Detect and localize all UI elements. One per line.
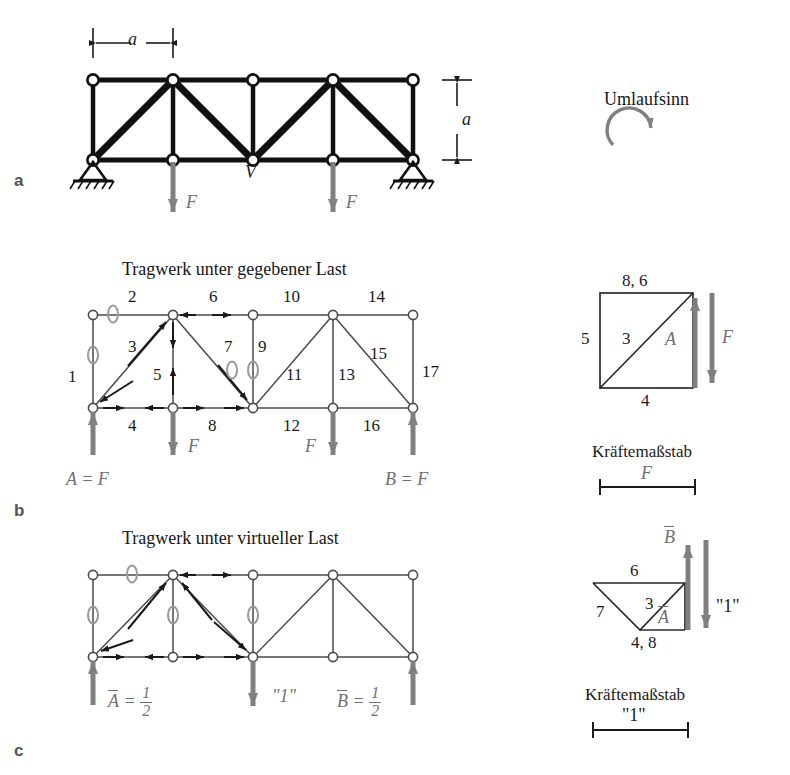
member-label-3: 3 — [128, 338, 137, 355]
polygon-b-label-bottom: 4 — [641, 392, 650, 409]
member-label-9: 9 — [258, 338, 267, 355]
panel-letter-c: c — [14, 742, 23, 759]
A-bar-symbol: A — [108, 692, 119, 710]
scale-value-c: "1" — [622, 706, 646, 724]
panel-a-load-label-1: F — [186, 193, 197, 211]
member-label-17: 17 — [422, 363, 439, 380]
reaction-label-B: B = F — [385, 470, 428, 488]
panel-c-title: Tragwerk unter virtueller Last — [122, 529, 339, 547]
B-bar-equals: = — [353, 691, 365, 711]
scale-caption-c: Kräftemaßstab — [585, 686, 685, 703]
member-label-13: 13 — [338, 366, 355, 383]
node-label-V: V — [245, 163, 256, 181]
member-label-14: 14 — [368, 288, 385, 305]
polygon-c-label-B-bar: B — [664, 528, 675, 546]
polygon-c-label-left: 7 — [596, 603, 605, 620]
polygon-b-label-A: A — [665, 330, 676, 348]
dimension-label-vertical: a — [462, 110, 471, 128]
member-label-10: 10 — [283, 288, 300, 305]
member-label-6: 6 — [209, 288, 218, 305]
figure-canvas: a b c a a V F F Tragwerk unter gegebener… — [0, 0, 790, 775]
member-label-12: 12 — [283, 417, 300, 434]
polygon-b-label-F: F — [722, 328, 733, 346]
polygon-b-label-left: 5 — [581, 330, 590, 347]
truss-c-members — [93, 575, 413, 657]
polygon-c-external-arrows — [688, 540, 706, 630]
polygon-c-label-A-bar: A — [658, 608, 669, 626]
polygon-c-label-one: "1" — [716, 597, 740, 615]
scale-caption-b: Kräftemaßstab — [592, 443, 692, 460]
member-label-1: 1 — [68, 368, 77, 385]
panel-a-load-label-2: F — [346, 193, 357, 211]
reaction-label-A: A = F — [66, 470, 109, 488]
A-bar-fraction: 1 2 — [140, 685, 152, 720]
member-label-8: 8 — [208, 417, 217, 434]
umlaufsinn-arrow-icon — [607, 108, 651, 145]
panel-letter-a: a — [14, 172, 23, 189]
panel-letter-b: b — [14, 502, 24, 519]
reaction-label-B-bar: B = 1 2 — [337, 685, 381, 720]
polygon-b-external-arrows — [695, 293, 712, 388]
panel-b-force-polygon — [600, 293, 712, 495]
virtual-load-label: "1" — [272, 687, 296, 705]
member-label-16: 16 — [363, 417, 380, 434]
panel-a-truss — [70, 28, 472, 212]
polygon-b-label-top: 8, 6 — [622, 272, 648, 289]
umlaufsinn-label: Umlaufsinn — [604, 90, 689, 108]
member-label-2: 2 — [128, 288, 137, 305]
A-bar-equals: = — [124, 691, 136, 711]
panel-b-load-label-2: F — [305, 437, 316, 455]
polygon-c-label-top: 6 — [630, 562, 639, 579]
dimension-label-horizontal: a — [128, 30, 137, 48]
member-label-5: 5 — [153, 366, 162, 383]
B-bar-symbol: B — [337, 692, 348, 710]
reaction-label-A-bar: A = 1 2 — [108, 685, 152, 720]
panel-b-load-label-1: F — [188, 437, 199, 455]
polygon-b-label-diagonal: 3 — [622, 330, 631, 347]
member-label-4: 4 — [128, 417, 137, 434]
figure-svg — [0, 0, 790, 775]
B-bar-fraction: 1 2 — [369, 685, 381, 720]
member-label-7: 7 — [224, 338, 233, 355]
member-label-11: 11 — [286, 366, 302, 383]
truss-a-verticals — [93, 80, 413, 160]
scale-value-b: F — [641, 464, 652, 482]
polygon-c-label-bottom: 4, 8 — [631, 634, 657, 651]
member-label-15: 15 — [370, 345, 387, 362]
panel-b-title: Tragwerk unter gegebener Last — [122, 260, 347, 278]
polygon-c-label-diagonal: 3 — [645, 595, 654, 612]
